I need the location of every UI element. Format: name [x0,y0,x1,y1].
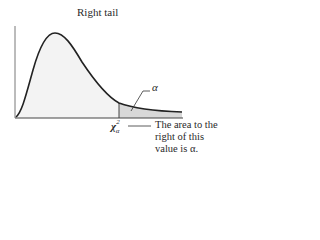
critical-value-label: χ2α [111,119,123,135]
annotation-text: The area to the right of this value is α… [155,119,218,155]
annotation-line-3: value is α. [155,143,218,155]
crit-superscript: 2 [116,118,120,126]
annotation-line-2: right of this [155,131,218,143]
crit-subscript: α [116,127,120,135]
annotation-line-1: The area to the [155,119,218,131]
alpha-label: α [152,81,158,93]
